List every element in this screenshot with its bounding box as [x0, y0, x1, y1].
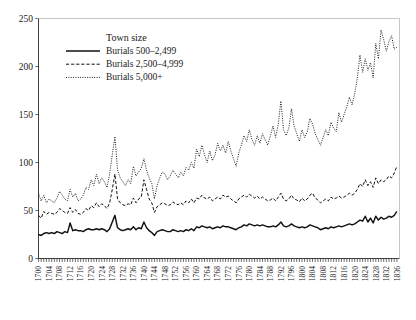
chart-legend: Town sizeBurials 500–2,499Burials 2,500–… — [66, 32, 184, 82]
x-tick-label: 1812 — [329, 266, 338, 281]
x-tick-label: 1736 — [129, 266, 138, 281]
x-tick-label: 1744 — [150, 266, 159, 281]
x-tick-label: 1784 — [256, 266, 265, 281]
x-tick-label: 1700 — [34, 266, 43, 281]
x-tick-label: 1792 — [277, 266, 286, 281]
x-tick-label: 1836 — [393, 266, 402, 281]
x-tick-label: 1820 — [351, 266, 360, 281]
x-tick-label: 1808 — [319, 266, 328, 281]
x-tick-label: 1756 — [182, 266, 191, 281]
y-tick-label: 0 — [28, 254, 33, 264]
x-tick-label: 1816 — [340, 266, 349, 281]
data-series-group — [39, 30, 397, 235]
x-tick-label: 1740 — [140, 266, 149, 281]
x-tick-label: 1712 — [66, 266, 75, 281]
x-tick-label: 1772 — [224, 266, 233, 281]
x-tick-label: 1776 — [235, 266, 244, 281]
x-tick-label: 1832 — [382, 266, 391, 281]
x-tick-label: 1728 — [108, 266, 117, 281]
y-tick-label: 200 — [19, 62, 34, 72]
series-line-2 — [39, 166, 397, 218]
axis-frame — [39, 19, 400, 259]
y-tick-label: 150 — [19, 110, 34, 120]
x-tick-label: 1828 — [372, 266, 381, 281]
x-tick-label: 1760 — [192, 266, 201, 281]
series-line-3 — [39, 30, 397, 203]
x-tick-label: 1748 — [161, 266, 170, 281]
y-tick-label: 250 — [19, 14, 34, 24]
x-tick-label: 1768 — [213, 266, 222, 281]
x-tick-label: 1780 — [245, 266, 254, 281]
x-tick-label: 1788 — [266, 266, 275, 281]
axis-spines — [39, 19, 400, 259]
x-tick-label: 1804 — [308, 266, 317, 281]
legend-label-2: Burials 2,500–4,999 — [106, 59, 184, 69]
legend-label-1: Burials 500–2,499 — [106, 46, 176, 56]
x-axis: 1700170417081712171617201724172817321736… — [34, 259, 401, 282]
burials-line-chart: 050100150200250 170017041708171217161720… — [0, 0, 416, 320]
x-tick-label: 1752 — [171, 266, 180, 281]
series-line-1 — [39, 211, 397, 235]
x-tick-label: 1800 — [298, 266, 307, 281]
x-tick-label: 1704 — [45, 266, 54, 281]
y-tick-label: 100 — [19, 158, 34, 168]
x-tick-label: 1764 — [203, 266, 212, 281]
x-tick-label: 1724 — [98, 266, 107, 281]
x-tick-label: 1824 — [361, 266, 370, 281]
x-tick-label: 1708 — [55, 266, 64, 281]
y-tick-label: 50 — [24, 206, 34, 216]
x-tick-label: 1720 — [87, 266, 96, 281]
x-tick-label: 1732 — [119, 266, 128, 281]
chart-canvas: 050100150200250 170017041708171217161720… — [0, 0, 416, 320]
x-tick-label: 1796 — [287, 266, 296, 281]
legend-label-3: Burials 5,000+ — [106, 72, 163, 82]
y-axis: 050100150200250 — [19, 14, 39, 264]
x-tick-label: 1716 — [76, 266, 85, 281]
legend-title: Town size — [106, 32, 147, 43]
